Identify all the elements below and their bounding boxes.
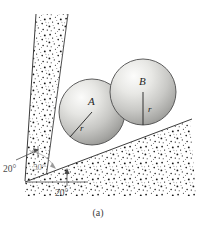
wedge-angle-arrowhead bbox=[50, 163, 56, 169]
sphere-a-label: A bbox=[87, 95, 95, 107]
wedge-interior-angle-label: 50° bbox=[33, 162, 46, 172]
figure-container: A r B r 20° 50° bbox=[0, 0, 197, 230]
sphere-b-label: B bbox=[139, 75, 146, 87]
figure-svg: A r B r 20° 50° bbox=[0, 0, 197, 230]
sphere-b-radius-label: r bbox=[148, 104, 152, 114]
left-wall-angle-label: 20° bbox=[3, 164, 17, 174]
ground-angle-label: 20° bbox=[55, 188, 69, 198]
figure-caption: (a) bbox=[92, 207, 103, 219]
sphere-a-radius-label: r bbox=[80, 123, 84, 133]
sphere-b: B r bbox=[110, 59, 176, 125]
left-wall-stipple bbox=[25, 14, 68, 181]
left-wall-surface bbox=[25, 14, 68, 181]
